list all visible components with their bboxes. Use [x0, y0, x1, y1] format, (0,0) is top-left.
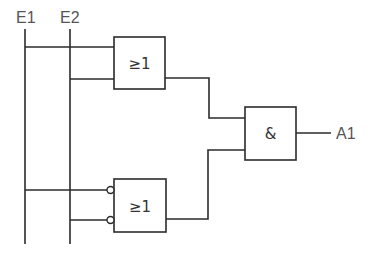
or-gate-2-symbol: ≥1 — [129, 198, 151, 216]
output-label-a1: A1 — [336, 125, 356, 142]
input-label-e1: E1 — [16, 9, 36, 26]
and-gate: & — [245, 107, 296, 160]
input-label-e2: E2 — [60, 9, 80, 26]
or-gate-1: ≥1 — [114, 37, 165, 89]
inversion-bubble-2 — [107, 217, 114, 224]
wire-or2-to-and — [166, 150, 245, 219]
and-gate-symbol: & — [265, 125, 277, 143]
logic-diagram: E1 E2 ≥1 ≥1 & A1 — [0, 0, 373, 260]
or-gate-1-symbol: ≥1 — [128, 55, 150, 73]
wire-or1-to-and — [165, 78, 245, 118]
inversion-bubble-1 — [107, 187, 114, 194]
or-gate-2: ≥1 — [107, 179, 166, 232]
